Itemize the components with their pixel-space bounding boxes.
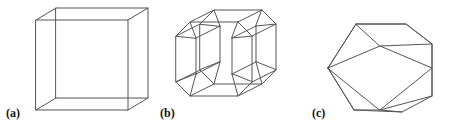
cube-back-face — [56, 8, 148, 98]
trunc-strut-bottom-left — [190, 84, 214, 96]
trunc-triangle-back-top-right — [256, 10, 276, 26]
trunc-strut-lower-right — [252, 70, 276, 82]
cuboctahedron-edge-bottom-right — [380, 96, 432, 110]
trunc-triangle-back-bottom-left — [200, 62, 220, 84]
panel-label-c: (c) — [312, 107, 325, 119]
cube-wireframe — [0, 0, 152, 132]
trunc-triangle-front-top-left — [176, 22, 196, 38]
cube-front-face — [36, 20, 128, 110]
cuboctahedron-edge-lower-left — [328, 68, 354, 110]
cuboctahedron-edge-upper-left — [328, 24, 356, 68]
trunc-back-octagon — [200, 10, 276, 84]
panel-label-b: (b) — [160, 107, 175, 119]
trunc-strut-upper-left — [176, 24, 200, 36]
cube-edge-bottom-left — [36, 98, 56, 110]
cuboctahedron-wireframe — [302, 0, 458, 132]
panel-cuboctahedron: (c) — [302, 0, 458, 132]
cube-edge-bottom-right — [128, 98, 148, 110]
trunc-triangle-front-bottom-right — [232, 74, 252, 96]
polyhedra-figure: (a) — [0, 0, 458, 132]
trunc-strut-top-left — [190, 10, 214, 22]
trunc-front-octagon — [176, 22, 252, 96]
panel-cube: (a) — [0, 0, 152, 132]
panel-label-a: (a) — [6, 107, 20, 119]
cuboctahedron-silhouette — [328, 24, 432, 112]
cube-edge-top-right — [128, 8, 148, 20]
cuboctahedron-top-face — [356, 24, 432, 46]
panel-truncated-cube: (b) — [152, 0, 302, 132]
trunc-strut-bottom-right — [238, 84, 262, 96]
trunc-triangle-back-bottom-right — [256, 62, 276, 84]
cube-edge-top-left — [36, 8, 56, 20]
